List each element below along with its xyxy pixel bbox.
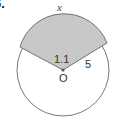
central-angle-label: 1.1 xyxy=(54,53,69,65)
radius-label: 5 xyxy=(85,58,91,70)
problem-number: 6. xyxy=(0,0,5,11)
center-label: O xyxy=(59,72,68,84)
arc-length-label: x xyxy=(57,1,62,13)
